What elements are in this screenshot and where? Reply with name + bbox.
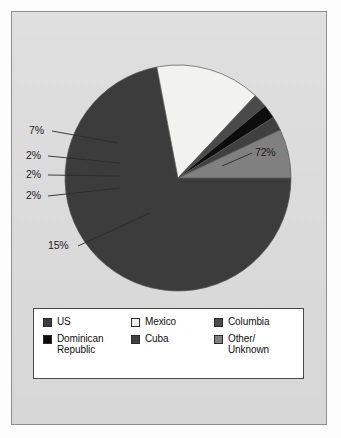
legend-swatch-icon (43, 318, 52, 327)
slice-label-other: 7% (29, 125, 44, 136)
pie-slice-group (65, 65, 291, 291)
legend-swatch-icon (131, 318, 140, 327)
legend-item-label: Mexico (145, 316, 176, 328)
legend-item-label: Columbia (228, 316, 269, 328)
slice-label-columbia: 2% (26, 150, 41, 161)
legend-item-cuba[interactable]: Cuba (131, 333, 214, 356)
legend-swatch-icon (214, 318, 223, 327)
figure-container: 72% 15% 7% 2% 2% 2% USMexicoColumbiaDomi… (0, 0, 341, 438)
slice-label-mexico: 15% (48, 240, 68, 251)
legend-item-dominican-republic[interactable]: DominicanRepublic (43, 333, 131, 356)
legend-box: USMexicoColumbiaDominicanRepublicCubaOth… (33, 308, 304, 379)
slice-label-cuba: 2% (26, 190, 41, 201)
legend-swatch-icon (131, 335, 140, 344)
legend-item-mexico[interactable]: Mexico (131, 316, 214, 328)
legend-item-label: Cuba (145, 333, 169, 345)
legend-grid: USMexicoColumbiaDominicanRepublicCubaOth… (43, 316, 299, 356)
legend-item-label: DominicanRepublic (57, 333, 103, 356)
slice-label-us: 72% (255, 147, 275, 158)
legend-item-us[interactable]: US (43, 316, 131, 328)
legend-swatch-icon (214, 335, 223, 344)
legend-item-other-unknown[interactable]: Other/Unknown (214, 333, 299, 356)
legend-item-columbia[interactable]: Columbia (214, 316, 299, 328)
legend-item-label: US (57, 316, 71, 328)
legend-item-label: Other/Unknown (228, 333, 269, 356)
legend-swatch-icon (43, 335, 52, 344)
slice-label-dominican: 2% (26, 169, 41, 180)
